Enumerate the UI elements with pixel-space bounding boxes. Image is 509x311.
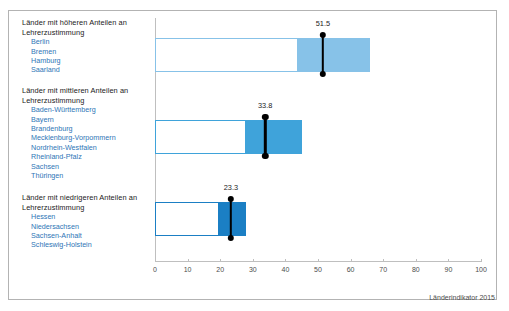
bar-range-fill bbox=[219, 202, 247, 236]
source-note: Länderindikator 2015 bbox=[429, 294, 495, 301]
list-item: Niedersachsen bbox=[22, 222, 150, 231]
x-axis-tick-label: 60 bbox=[347, 266, 355, 273]
mean-marker-cap-bottom bbox=[320, 71, 326, 77]
bar-range-fill bbox=[246, 120, 301, 154]
list-item: Schleswig-Holstein bbox=[22, 240, 150, 249]
x-axis-tick-label: 10 bbox=[184, 266, 192, 273]
list-item: Saarland bbox=[22, 65, 150, 74]
x-axis-tick-label: 70 bbox=[379, 266, 387, 273]
list-item: Brandenburg bbox=[22, 124, 150, 133]
bar-range-fill bbox=[298, 38, 370, 72]
bar-range-outline bbox=[155, 38, 298, 72]
mean-marker-value-label: 33.8 bbox=[258, 101, 272, 110]
list-item: Sachsen bbox=[22, 162, 150, 171]
x-axis-tick-label: 80 bbox=[412, 266, 420, 273]
list-item: Nordrhein-Westfalen bbox=[22, 143, 150, 152]
x-axis-tick bbox=[481, 259, 482, 262]
list-item: Rheinland-Pfalz bbox=[22, 152, 150, 161]
category-group-low: Länder mit niedrigeren Anteilen an Lehre… bbox=[22, 193, 150, 250]
mean-marker-line bbox=[264, 116, 266, 158]
category-group-high: Länder mit höheren Anteilen an Lehrerzus… bbox=[22, 18, 150, 75]
x-axis-tick-label: 90 bbox=[444, 266, 452, 273]
group-heading-middle: Länder mit mittleren Anteilen an Lehrerz… bbox=[22, 86, 150, 105]
x-axis-tick bbox=[318, 259, 319, 262]
bar-row: 51.5 bbox=[155, 38, 481, 72]
x-axis-tick-label: 50 bbox=[314, 266, 322, 273]
mean-marker-value-label: 51.5 bbox=[316, 19, 330, 28]
mean-marker-value-label: 23.3 bbox=[224, 183, 238, 192]
x-axis-tick bbox=[416, 259, 417, 262]
list-item: Sachsen-Anhalt bbox=[22, 231, 150, 240]
mean-marker-line bbox=[230, 198, 232, 240]
group-member-list-middle: Baden-Württemberg Bayern Brandenburg Mec… bbox=[22, 105, 150, 180]
list-item: Thüringen bbox=[22, 171, 150, 180]
x-axis-tick bbox=[253, 259, 254, 262]
category-label-column: Länder mit höheren Anteilen an Lehrerzus… bbox=[22, 18, 150, 262]
list-item: Bremen bbox=[22, 47, 150, 56]
x-axis-tick bbox=[188, 259, 189, 262]
bar-row: 33.8 bbox=[155, 120, 481, 154]
group-heading-low: Länder mit niedrigeren Anteilen an Lehre… bbox=[22, 193, 150, 212]
x-axis-tick-label: 30 bbox=[249, 266, 257, 273]
category-group-middle: Länder mit mittleren Anteilen an Lehrerz… bbox=[22, 86, 150, 180]
group-heading-high: Länder mit höheren Anteilen an Lehrerzus… bbox=[22, 18, 150, 37]
x-axis-tick bbox=[383, 259, 384, 262]
list-item: Berlin bbox=[22, 37, 150, 46]
x-axis-tick bbox=[155, 259, 156, 262]
chart-figure: Länder mit höheren Anteilen an Lehrerzus… bbox=[0, 0, 509, 311]
plot-area: 0102030405060708090100 51.533.823.3 bbox=[155, 18, 485, 262]
x-axis-tick-label: 40 bbox=[281, 266, 289, 273]
x-axis-tick bbox=[220, 259, 221, 262]
x-axis-tick bbox=[351, 259, 352, 262]
list-item: Hamburg bbox=[22, 56, 150, 65]
bar-row: 23.3 bbox=[155, 202, 481, 236]
group-member-list-high: Berlin Bremen Hamburg Saarland bbox=[22, 37, 150, 75]
list-item: Baden-Württemberg bbox=[22, 105, 150, 114]
group-member-list-low: Hessen Niedersachsen Sachsen-Anhalt Schl… bbox=[22, 212, 150, 250]
mean-marker-cap-bottom bbox=[228, 235, 234, 241]
list-item: Hessen bbox=[22, 212, 150, 221]
x-axis-tick-label: 100 bbox=[475, 266, 487, 273]
list-item: Bayern bbox=[22, 115, 150, 124]
mean-marker-line bbox=[322, 34, 324, 76]
x-axis-tick bbox=[448, 259, 449, 262]
bar-range-outline bbox=[155, 120, 246, 154]
x-axis-tick-label: 0 bbox=[153, 266, 157, 273]
x-axis-tick bbox=[285, 259, 286, 262]
bar-range-outline bbox=[155, 202, 219, 236]
x-axis-tick-label: 20 bbox=[216, 266, 224, 273]
mean-marker-cap-bottom bbox=[262, 153, 268, 159]
list-item: Mecklenburg-Vorpommern bbox=[22, 133, 150, 142]
